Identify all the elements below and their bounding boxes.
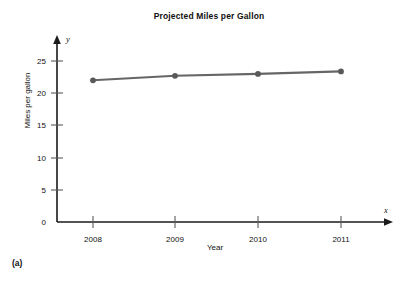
y-tick-label-15: 15 [37,121,46,130]
y-tick-label-20: 20 [37,89,46,98]
x-axis-title: Year [145,243,285,252]
x-axis [57,218,393,226]
x-axis-variable-label: x [383,205,388,215]
y-axis [53,35,61,222]
panel-label: (a) [12,258,22,268]
y-axis-variable-label: y [65,34,70,44]
y-tick-label-5: 5 [42,186,47,195]
figure-panel: Projected Miles per Gallon 0 [0,0,418,281]
y-tick-label-25: 25 [37,57,46,66]
y-tick-label-10: 10 [37,154,46,163]
data-point-2009 [172,73,178,79]
series-line-projected-mpg [93,71,341,80]
data-point-2010 [255,71,261,77]
y-axis-title: Miles per gallon [23,61,32,141]
x-tick-label-2011: 2011 [332,235,350,244]
data-point-2011 [338,69,344,75]
x-tick-label-2008: 2008 [84,235,102,244]
y-tick-label-0: 0 [42,218,47,227]
data-point-2008 [90,77,96,83]
line-chart-plot: 0 5 10 15 20 25 2008 2009 2010 2011 y x [0,0,418,281]
